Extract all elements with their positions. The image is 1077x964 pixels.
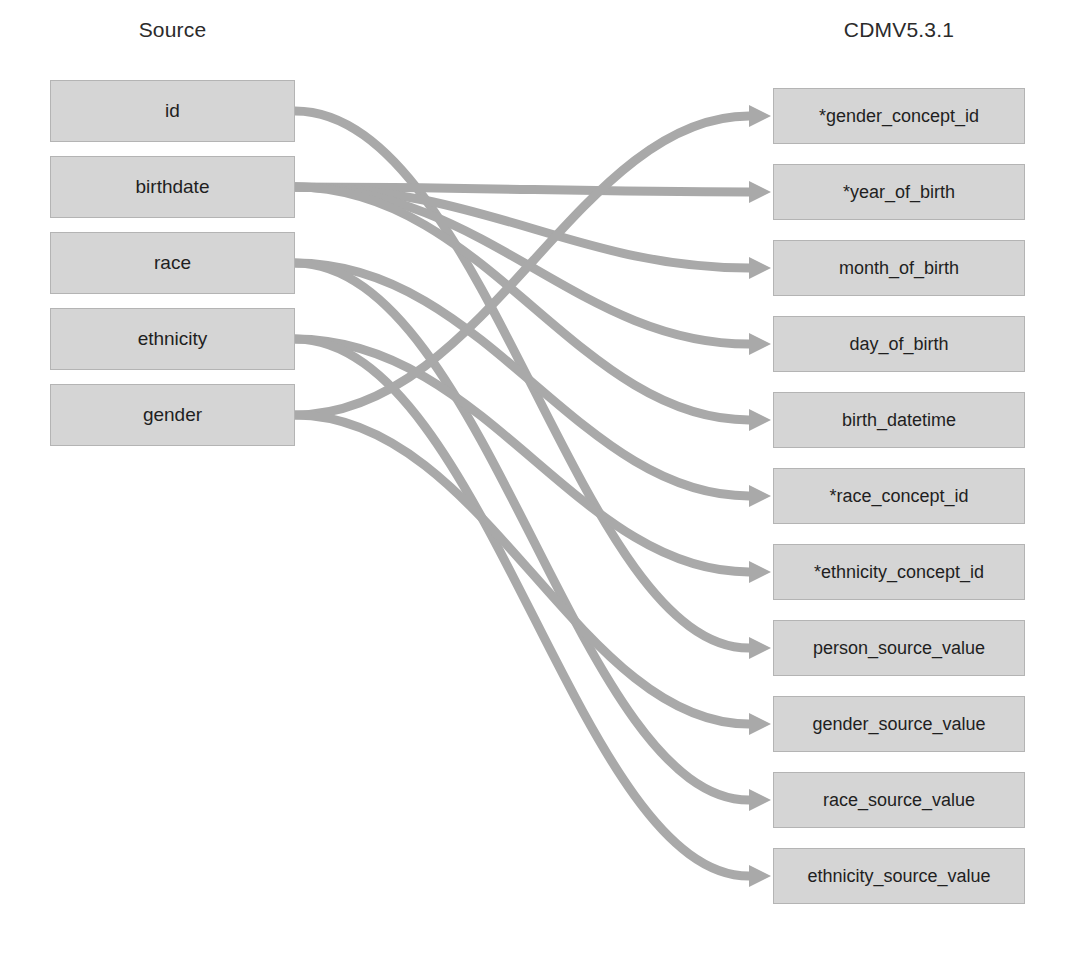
target-field-label: day_of_birth	[849, 334, 948, 355]
target-field-month-of-birth[interactable]: month_of_birth	[773, 240, 1025, 296]
target-field-label: *race_concept_id	[829, 486, 968, 507]
target-column-header: CDMV5.3.1	[773, 18, 1025, 42]
source-field-ethnicity[interactable]: ethnicity	[50, 308, 295, 370]
source-field-birthdate[interactable]: birthdate	[50, 156, 295, 218]
source-field-label: race	[154, 252, 191, 274]
target-field-race-concept-id[interactable]: *race_concept_id	[773, 468, 1025, 524]
source-field-label: ethnicity	[138, 328, 208, 350]
target-field-label: birth_datetime	[842, 410, 956, 431]
source-field-label: birthdate	[136, 176, 210, 198]
target-field-label: person_source_value	[813, 638, 985, 659]
edge-race-to-race-concept-id	[295, 263, 771, 507]
target-field-label: month_of_birth	[839, 258, 959, 279]
target-field-person-source-value[interactable]: person_source_value	[773, 620, 1025, 676]
target-field-day-of-birth[interactable]: day_of_birth	[773, 316, 1025, 372]
target-field-label: *year_of_birth	[843, 182, 955, 203]
edge-ethnicity-to-ethnicity-source-value	[295, 339, 771, 887]
source-field-label: gender	[143, 404, 202, 426]
target-field-label: ethnicity_source_value	[807, 866, 990, 887]
edge-race-to-race-source-value	[295, 263, 771, 811]
source-field-race[interactable]: race	[50, 232, 295, 294]
target-field-race-source-value[interactable]: race_source_value	[773, 772, 1025, 828]
target-field-label: gender_source_value	[812, 714, 985, 735]
source-field-gender[interactable]: gender	[50, 384, 295, 446]
mapping-diagram: Source CDMV5.3.1 idbirthdateraceethnicit…	[0, 0, 1077, 964]
source-column-header: Source	[50, 18, 295, 42]
target-field-year-of-birth[interactable]: *year_of_birth	[773, 164, 1025, 220]
source-field-id[interactable]: id	[50, 80, 295, 142]
source-field-label: id	[165, 100, 180, 122]
target-field-gender-source-value[interactable]: gender_source_value	[773, 696, 1025, 752]
target-field-birth-datetime[interactable]: birth_datetime	[773, 392, 1025, 448]
target-field-label: *gender_concept_id	[819, 106, 979, 127]
target-field-gender-concept-id[interactable]: *gender_concept_id	[773, 88, 1025, 144]
target-field-ethnicity-source-value[interactable]: ethnicity_source_value	[773, 848, 1025, 904]
target-field-ethnicity-concept-id[interactable]: *ethnicity_concept_id	[773, 544, 1025, 600]
target-field-label: *ethnicity_concept_id	[814, 562, 984, 583]
target-field-label: race_source_value	[823, 790, 975, 811]
